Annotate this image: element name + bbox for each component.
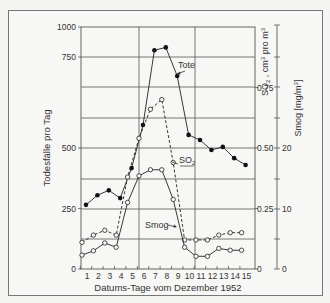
- x-tick-label: 15: [242, 271, 252, 281]
- left-tick-label: 750: [62, 52, 76, 62]
- data-point: [182, 245, 186, 249]
- data-point: [148, 168, 152, 172]
- x-tick-label: 4: [119, 271, 124, 281]
- data-point: [205, 238, 209, 242]
- data-point: [194, 254, 198, 258]
- svg-text:Tote: Tote: [178, 60, 195, 70]
- data-point: [107, 188, 112, 193]
- so2-tick-label: 0.50: [257, 143, 274, 153]
- data-point: [232, 156, 237, 161]
- data-point: [205, 254, 209, 258]
- left-tick-label: 0: [71, 264, 76, 274]
- data-point: [160, 168, 164, 172]
- data-point: [164, 45, 169, 50]
- x-tick-label: 5: [130, 271, 135, 281]
- data-point: [84, 203, 89, 208]
- x-axis-title: Datums-Tage vom Dezember 1952: [94, 282, 241, 293]
- x-tick-label: 12: [208, 271, 218, 281]
- data-point: [95, 193, 100, 198]
- left-tick-label: 500: [62, 143, 76, 153]
- x-tick-label: 1: [85, 271, 90, 281]
- svg-text:Smog: Smog: [145, 220, 169, 230]
- data-point: [80, 253, 84, 257]
- data-point: [137, 136, 141, 140]
- data-point: [160, 97, 164, 101]
- data-point: [228, 248, 232, 252]
- data-point: [239, 231, 243, 235]
- x-tick-label: 10: [185, 271, 195, 281]
- data-point: [91, 249, 95, 253]
- data-point: [243, 163, 248, 168]
- x-tick-label: 8: [164, 271, 169, 281]
- smog-tick-label: 10: [282, 204, 292, 214]
- so2-tick-label: 0.25: [257, 204, 274, 214]
- data-point: [217, 233, 221, 237]
- x-tick-label: 13: [219, 271, 229, 281]
- data-point: [148, 107, 152, 111]
- x-tick-label: 14: [230, 271, 240, 281]
- data-point: [114, 245, 118, 249]
- smog-tick-label: 20: [282, 143, 292, 153]
- x-tick-label: 2: [96, 271, 101, 281]
- data-point: [221, 145, 226, 150]
- data-point: [103, 241, 107, 245]
- data-point: [194, 238, 198, 242]
- data-point: [118, 196, 123, 201]
- data-point: [125, 175, 129, 179]
- left-tick-label: 250: [62, 204, 76, 214]
- data-point: [137, 174, 141, 178]
- x-tick-label: 3: [107, 271, 112, 281]
- x-tick-label: 11: [197, 271, 206, 281]
- data-point: [171, 197, 175, 201]
- left-tick-label: 1000: [57, 22, 76, 32]
- x-tick-label: 9: [176, 271, 181, 281]
- data-point: [152, 48, 157, 53]
- so2-axis-title: SO2 , cm3 pro m3: [260, 27, 271, 96]
- smog-axis-title: Smog [mg/m3]: [293, 80, 303, 137]
- data-point: [209, 148, 214, 153]
- data-point: [91, 233, 95, 237]
- data-point: [125, 200, 129, 204]
- x-tick-label: 6: [142, 271, 147, 281]
- data-point: [228, 231, 232, 235]
- data-point: [198, 138, 203, 143]
- data-point: [114, 233, 118, 237]
- data-point: [239, 248, 243, 252]
- data-point: [80, 240, 84, 244]
- so2-tick-label: 0: [257, 264, 262, 274]
- data-point: [103, 228, 107, 232]
- data-point: [217, 246, 221, 250]
- smog-tick-label: 0: [282, 264, 287, 274]
- chart-frame: [9, 11, 323, 296]
- data-point: [186, 133, 191, 138]
- left-axis-title: Todesfälle pro Tag: [41, 110, 52, 187]
- x-tick-label: 7: [153, 271, 158, 281]
- chart: 123456789101112131415 02505007501000 00.…: [0, 0, 330, 303]
